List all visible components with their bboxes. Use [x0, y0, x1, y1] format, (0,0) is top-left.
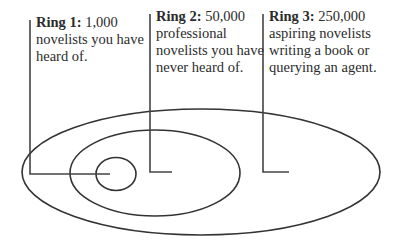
ring-2-count: 50,000 [205, 8, 245, 24]
ring-3-label: Ring 3: 250,000 aspiring novelists writi… [269, 8, 394, 76]
ring-1-count: 1,000 [85, 14, 118, 30]
ring-1-label: Ring 1: 1,000 novelists you have heard o… [36, 14, 146, 65]
ring-3-description: aspiring novelists writing a book or que… [269, 25, 377, 75]
ring-3-count: 250,000 [318, 8, 365, 24]
ring-2-description: professional novelists you have never he… [156, 25, 264, 75]
ring-3-title: Ring 3: [269, 8, 315, 24]
ring-2-label: Ring 2: 50,000 professional novelists yo… [156, 8, 266, 76]
ring-3-ellipse [22, 109, 380, 235]
ring-1-title: Ring 1: [36, 14, 82, 30]
ring-2-title: Ring 2: [156, 8, 202, 24]
ring-1-description: novelists you have heard of. [36, 31, 144, 64]
